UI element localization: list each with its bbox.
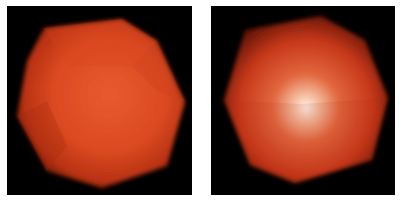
left-render-panel: Polyhedral sphere rendered with diffuse-… [7, 6, 192, 195]
right-render-panel: Polyhedral sphere rendered with specular… [211, 6, 395, 195]
specular-polyhedron-sphere [211, 6, 395, 195]
diffuse-polyhedron-sphere [7, 6, 192, 195]
